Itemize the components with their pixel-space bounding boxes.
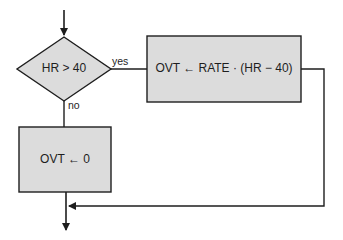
no-label: no: [68, 99, 80, 111]
decision-label: HR > 40: [17, 61, 111, 75]
overtime-calc-label: OVT ← RATE · (HR − 40): [147, 61, 301, 75]
overtime-zero-label: OVT ← 0: [19, 152, 111, 166]
flowchart-canvas: [0, 0, 343, 240]
yes-label: yes: [112, 55, 128, 67]
